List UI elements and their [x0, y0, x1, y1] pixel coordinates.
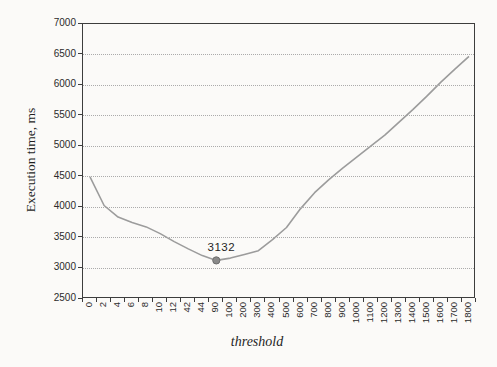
- x-tick-mark: [349, 298, 350, 302]
- x-tick-mark: [138, 298, 139, 302]
- gridline: [83, 85, 474, 86]
- x-tick-label: 2: [98, 302, 108, 307]
- x-tick-mark: [264, 298, 265, 302]
- x-tick-mark: [166, 298, 167, 302]
- x-tick-label: 1800: [463, 302, 473, 323]
- x-tick-label: 800: [323, 302, 333, 318]
- plot-area: [82, 23, 475, 298]
- x-tick-mark: [194, 298, 195, 302]
- x-tick-mark: [110, 298, 111, 302]
- series-plot: [83, 24, 476, 299]
- x-tick-mark: [321, 298, 322, 302]
- x-tick-label: 600: [295, 302, 305, 318]
- y-tick-label: 5500: [40, 109, 76, 120]
- gridline: [83, 176, 474, 177]
- y-tick-mark: [78, 84, 83, 85]
- x-tick-label: 200: [238, 302, 248, 318]
- x-tick-label: 4: [112, 302, 122, 307]
- line-chart: Execution time, ms 250030003500400045005…: [0, 0, 497, 367]
- x-tick-mark: [96, 298, 97, 302]
- x-tick-mark: [250, 298, 251, 302]
- x-tick-label: 400: [266, 302, 276, 318]
- x-tick-label: 44: [196, 302, 206, 313]
- x-tick-label: 300: [252, 302, 262, 318]
- x-tick-mark: [461, 298, 462, 302]
- x-tick-label: 100: [224, 302, 234, 318]
- x-tick-mark: [419, 298, 420, 302]
- y-tick-label: 3000: [40, 261, 76, 272]
- x-tick-mark: [180, 298, 181, 302]
- x-tick-mark: [447, 298, 448, 302]
- y-tick-label: 2500: [40, 292, 76, 303]
- y-tick-mark: [78, 236, 83, 237]
- x-tick-label: 1500: [421, 302, 431, 323]
- y-tick-mark: [78, 145, 83, 146]
- series-line: [90, 56, 469, 260]
- gridline: [83, 268, 474, 269]
- x-tick-label: 1200: [379, 302, 389, 323]
- x-tick-mark: [222, 298, 223, 302]
- y-tick-label: 3500: [40, 231, 76, 242]
- x-tick-label: 1100: [365, 302, 375, 322]
- x-tick-label: 1700: [449, 302, 459, 323]
- y-tick-mark: [78, 53, 83, 54]
- y-tick-mark: [78, 206, 83, 207]
- y-tick-mark: [78, 23, 83, 24]
- x-tick-label: 6: [126, 302, 136, 307]
- x-axis-title: threshold: [231, 334, 283, 350]
- y-tick-mark: [78, 175, 83, 176]
- x-tick-mark: [405, 298, 406, 302]
- gridline: [83, 146, 474, 147]
- data-point-marker: [213, 257, 220, 264]
- y-tick-label: 5000: [40, 139, 76, 150]
- x-tick-label: 1600: [435, 302, 445, 323]
- x-tick-mark: [391, 298, 392, 302]
- x-tick-mark: [208, 298, 209, 302]
- data-point-label: 3132: [208, 241, 236, 253]
- x-tick-label: 1000: [351, 302, 361, 323]
- x-tick-mark: [152, 298, 153, 302]
- x-tick-mark: [433, 298, 434, 302]
- x-tick-label: 90: [210, 302, 220, 313]
- y-tick-label: 4500: [40, 170, 76, 181]
- x-tick-label: 500: [281, 302, 291, 318]
- gridline: [83, 54, 474, 55]
- y-tick-label: 6500: [40, 48, 76, 59]
- x-tick-mark: [307, 298, 308, 302]
- x-tick-mark: [377, 298, 378, 302]
- x-tick-label: 42: [182, 302, 192, 313]
- y-tick-label: 6000: [40, 78, 76, 89]
- x-tick-mark: [279, 298, 280, 302]
- y-tick-label: 7000: [40, 17, 76, 28]
- x-tick-mark: [236, 298, 237, 302]
- x-tick-mark: [293, 298, 294, 302]
- x-tick-mark: [82, 298, 83, 302]
- y-tick-label: 4000: [40, 200, 76, 211]
- x-tick-label: 12: [168, 302, 178, 313]
- x-tick-mark: [475, 298, 476, 302]
- x-tick-mark: [335, 298, 336, 302]
- x-tick-label: 1400: [407, 302, 417, 323]
- gridline: [83, 207, 474, 208]
- x-tick-label: 900: [337, 302, 347, 318]
- y-tick-mark: [78, 267, 83, 268]
- x-tick-label: 10: [154, 302, 164, 313]
- x-tick-label: 700: [309, 302, 319, 318]
- x-tick-mark: [363, 298, 364, 302]
- gridline: [83, 115, 474, 116]
- y-tick-mark: [78, 114, 83, 115]
- x-tick-mark: [124, 298, 125, 302]
- x-tick-label: 0: [84, 302, 94, 307]
- x-tick-label: 1300: [393, 302, 403, 323]
- x-tick-label: 8: [140, 302, 150, 307]
- y-axis-title: Execution time, ms: [23, 108, 39, 213]
- gridline: [83, 237, 474, 238]
